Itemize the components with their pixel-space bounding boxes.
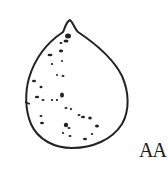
surface-speckles xyxy=(32,34,99,141)
seed-outline xyxy=(26,20,127,148)
figure-label: AA xyxy=(139,140,166,160)
